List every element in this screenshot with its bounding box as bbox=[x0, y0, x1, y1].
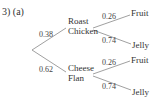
node-roast: Roast bbox=[68, 17, 89, 26]
node-flan: Flan bbox=[68, 74, 84, 83]
prob-rc-fruit: 0.26 bbox=[102, 13, 116, 21]
node-chicken: Chicken bbox=[68, 27, 98, 36]
node-cheese: Cheese bbox=[68, 64, 94, 73]
prob-cf-fruit: 0.26 bbox=[102, 59, 116, 67]
prob-cheese-flan: 0.62 bbox=[39, 66, 53, 74]
prob-roast-chicken: 0.38 bbox=[39, 31, 53, 39]
outcome-rc-jelly: Jelly bbox=[132, 41, 149, 50]
outcome-cf-jelly: Jelly bbox=[132, 88, 149, 97]
outcome-cf-fruit: Fruit bbox=[131, 56, 149, 65]
outcome-rc-fruit: Fruit bbox=[131, 9, 149, 18]
prob-cf-jelly: 0.74 bbox=[102, 83, 116, 91]
prob-rc-jelly: 0.74 bbox=[102, 37, 116, 45]
